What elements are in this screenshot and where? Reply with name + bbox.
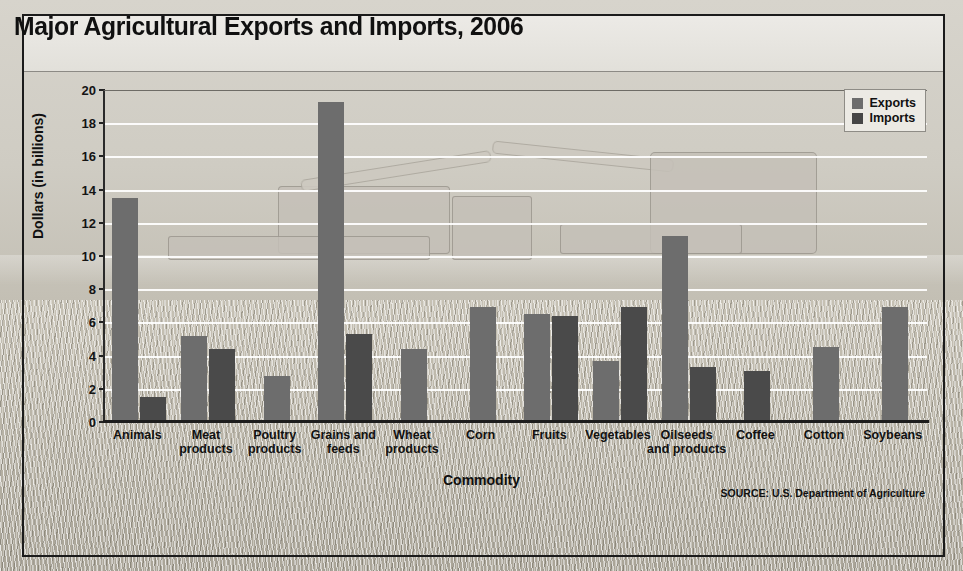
page-title: Major Agricultural Exports and Imports, … [14, 11, 523, 42]
bar-group [813, 91, 839, 422]
bar-imports [346, 334, 372, 422]
y-tick-label: 6 [89, 315, 96, 330]
bar-exports [112, 198, 138, 422]
bar-imports [744, 371, 770, 422]
bar-exports [181, 336, 207, 422]
bar-group [593, 91, 647, 422]
bar-imports [140, 397, 166, 422]
plot-area [103, 90, 927, 422]
x-category-label-line2: and products [642, 442, 731, 456]
bar-exports [401, 349, 427, 422]
bar-imports [690, 367, 716, 422]
bar-exports [882, 307, 908, 422]
x-axis-title: Commodity [0, 472, 963, 488]
legend-item-imports: Imports [852, 111, 916, 125]
y-tick-label: 2 [89, 381, 96, 396]
bar-group [181, 91, 235, 422]
bar-exports [662, 236, 688, 422]
bar-group [882, 91, 908, 422]
bar-exports [264, 376, 290, 422]
y-tick-label: 12 [82, 215, 96, 230]
bar-imports [552, 316, 578, 422]
bar-group [264, 91, 290, 422]
y-tick-label: 16 [82, 149, 96, 164]
x-category-label: Soybeans [848, 428, 937, 442]
bar-imports [621, 307, 647, 422]
bar-exports [524, 314, 550, 422]
bar-group [112, 91, 166, 422]
y-axis-ticks: 20181614121086420 [58, 90, 96, 422]
chart-legend: Exports Imports [844, 89, 926, 132]
chart-screenshot: Major Agricultural Exports and Imports, … [0, 0, 963, 571]
y-tick-label: 14 [82, 182, 96, 197]
y-tick-label: 18 [82, 116, 96, 131]
bar-group [318, 91, 372, 422]
bar-exports [470, 307, 496, 422]
bar-group [524, 91, 578, 422]
bar-group [401, 91, 427, 422]
y-tick-label: 4 [89, 348, 96, 363]
y-tick-label: 10 [82, 249, 96, 264]
y-tick-label: 8 [89, 282, 96, 297]
y-axis-title: Dollars (in billions) [30, 76, 46, 276]
legend-label-exports: Exports [869, 96, 916, 110]
y-tick-label: 20 [82, 83, 96, 98]
bar-imports [209, 349, 235, 422]
source-note: SOURCE: U.S. Department of Agriculture [721, 487, 925, 499]
x-axis-category-labels: AnimalsMeatproductsPoultryproductsGrains… [103, 428, 929, 472]
bar-exports [813, 347, 839, 422]
bar-exports [593, 361, 619, 422]
bar-group [470, 91, 496, 422]
x-category-label-line1: Soybeans [848, 428, 937, 442]
x-category-label-line2: products [368, 442, 457, 456]
bar-exports [318, 102, 344, 422]
plot-canvas [103, 90, 927, 422]
legend-swatch-exports-icon [852, 98, 863, 109]
legend-item-exports: Exports [852, 96, 916, 110]
x-axis-line [103, 420, 929, 423]
legend-label-imports: Imports [869, 111, 915, 125]
bar-group [662, 91, 716, 422]
legend-swatch-imports-icon [852, 113, 863, 124]
bar-group [744, 91, 770, 422]
